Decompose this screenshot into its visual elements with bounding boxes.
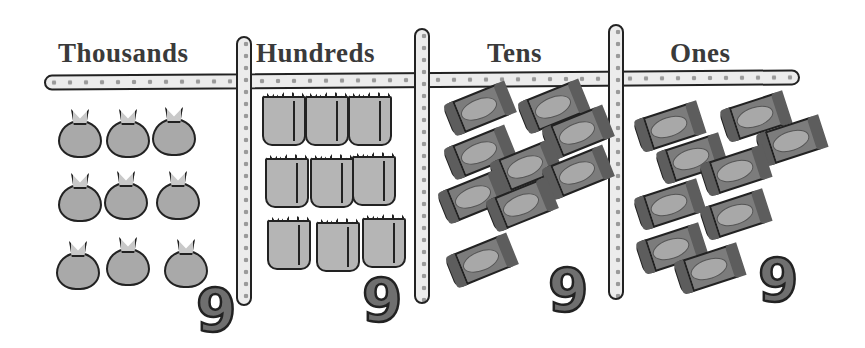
money-sack-icon	[56, 252, 100, 290]
digit-hundreds: 9	[362, 272, 402, 330]
paper-bag-icon	[267, 220, 311, 270]
money-sack-icon	[104, 182, 148, 220]
candy-bar-icon	[698, 189, 771, 242]
divider-hundreds-tens	[414, 28, 430, 304]
paper-bag-icon	[262, 96, 306, 146]
digit-tens: 9	[548, 262, 588, 320]
divider-thousands-hundreds	[236, 36, 252, 306]
paper-bag-icon	[265, 158, 309, 208]
header-ones: Ones	[670, 38, 731, 69]
header-tens: Tens	[487, 38, 542, 69]
candy-bar-icon	[632, 179, 705, 232]
header-hundreds: Hundreds	[256, 38, 375, 69]
paper-bag-icon	[352, 156, 396, 206]
paper-bag-icon	[316, 222, 360, 272]
candy-bar-icon	[442, 81, 516, 137]
paper-bag-icon	[348, 96, 392, 146]
digit-thousands: 9	[196, 282, 236, 340]
place-value-chart: Thousands Hundreds Tens Ones 9 9	[0, 0, 865, 348]
divider-tens-ones	[608, 24, 624, 300]
money-sack-icon	[58, 184, 102, 222]
paper-bag-icon	[362, 218, 406, 268]
money-sack-icon	[106, 248, 150, 286]
money-sack-icon	[152, 118, 196, 156]
money-sack-icon	[156, 182, 200, 220]
money-sack-icon	[106, 120, 150, 158]
digit-ones: 9	[758, 252, 798, 310]
paper-bag-icon	[310, 158, 354, 208]
header-thousands: Thousands	[58, 38, 189, 69]
paper-bag-icon	[305, 96, 349, 146]
money-sack-icon	[58, 120, 102, 158]
candy-bar-icon	[444, 233, 518, 289]
